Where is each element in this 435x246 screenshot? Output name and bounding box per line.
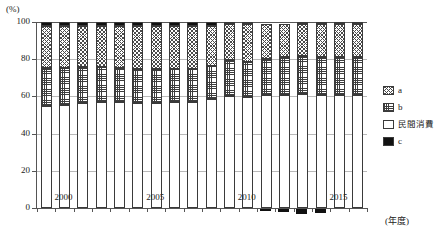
chart-root: (%) ab民間消費c (年度) 02040608010020002005201…: [0, 0, 435, 246]
x-axis-tick-label: 2015: [330, 192, 348, 202]
bar-segment-consumption: [352, 95, 363, 208]
bar-segment-c: [59, 22, 70, 26]
x-axis-tick: [330, 208, 331, 212]
bar-segment-c: [206, 22, 217, 26]
stacked-bar[interactable]: [169, 22, 180, 208]
legend-swatch-c: [383, 137, 394, 146]
y-axis-tick-label: 40: [3, 128, 30, 138]
y-axis-tick-label: 60: [3, 90, 30, 100]
bar-segment-b: [96, 67, 107, 102]
bar-segment-b: [297, 56, 308, 93]
stacked-bar[interactable]: [316, 22, 327, 208]
stacked-bar[interactable]: [279, 22, 290, 208]
bar-segment-a: [352, 24, 363, 57]
bar-segment-b: [59, 68, 70, 105]
bar-segment-a: [242, 24, 253, 62]
stacked-bar[interactable]: [297, 22, 308, 208]
x-axis-tick-label: 2005: [146, 192, 164, 202]
stacked-bar[interactable]: [206, 22, 217, 208]
x-axis-tick: [367, 208, 368, 212]
bar-segment-a: [41, 26, 52, 68]
legend-label-a: a: [398, 86, 402, 95]
x-axis-tick: [312, 208, 313, 212]
x-axis-tick: [55, 208, 56, 212]
x-axis-tick: [202, 208, 203, 212]
x-axis-tick: [37, 208, 38, 212]
bar-segment-c: [297, 22, 308, 24]
bar-segment-b: [151, 69, 162, 102]
bar-segment-a: [334, 24, 345, 57]
legend-swatch-consumption: [383, 120, 394, 129]
y-axis-tick: [32, 96, 37, 97]
x-axis-tick-label: 2010: [238, 192, 256, 202]
x-axis-tick: [147, 208, 148, 212]
stacked-bar[interactable]: [151, 22, 162, 208]
x-axis-unit-label: (年度): [385, 214, 409, 227]
x-axis-tick: [294, 208, 295, 212]
legend-label-c: c: [398, 137, 402, 146]
stacked-bar[interactable]: [77, 22, 88, 208]
bar-segment-c: [187, 22, 198, 26]
stacked-bar[interactable]: [114, 22, 125, 208]
bar-segment-c: [169, 22, 180, 26]
bar-segment-b: [187, 69, 198, 102]
bar-segment-consumption: [187, 102, 198, 208]
x-axis-tick: [184, 208, 185, 212]
bar-segment-consumption: [334, 95, 345, 208]
x-axis-tick: [257, 208, 258, 212]
bar-segment-consumption: [114, 102, 125, 208]
bar-segment-c: [352, 22, 363, 24]
x-axis-tick: [220, 208, 221, 212]
y-axis-tick: [32, 59, 37, 60]
bar-segment-c: [96, 22, 107, 26]
bar-segment-c: [114, 22, 125, 26]
x-axis-tick: [349, 208, 350, 212]
stacked-bar[interactable]: [334, 22, 345, 208]
bar-segment-consumption: [316, 95, 327, 208]
bar-segment-b: [224, 60, 235, 96]
bar-segment-c: [224, 22, 235, 24]
bar-segment-consumption: [297, 94, 308, 208]
bar-segment-b: [279, 57, 290, 94]
bar-segment-b: [242, 62, 253, 97]
legend-swatch-a: [383, 86, 394, 95]
y-axis-tick: [32, 171, 37, 172]
stacked-bar[interactable]: [41, 22, 52, 208]
x-axis-tick: [129, 208, 130, 212]
legend-item-b[interactable]: b: [383, 99, 435, 116]
stacked-bar[interactable]: [261, 22, 272, 208]
x-axis-tick: [239, 208, 240, 212]
legend-item-consumption[interactable]: 民間消費: [383, 116, 435, 133]
bar-segment-c-negative: [278, 209, 289, 212]
y-axis-tick: [32, 134, 37, 135]
bar-segment-b: [114, 68, 125, 102]
bar-segment-a: [59, 26, 70, 68]
bar-segment-a: [96, 26, 107, 67]
bar-segment-b: [169, 69, 180, 102]
stacked-bar[interactable]: [224, 22, 235, 208]
x-axis-tick: [74, 208, 75, 212]
bar-segment-b: [132, 69, 143, 102]
stacked-bar[interactable]: [132, 22, 143, 208]
legend-item-a[interactable]: a: [383, 82, 435, 99]
stacked-bar[interactable]: [187, 22, 198, 208]
bar-segment-c-negative: [296, 209, 307, 214]
y-axis-unit-label: (%): [6, 4, 20, 14]
y-axis-tick-label: 100: [3, 16, 30, 26]
stacked-bar[interactable]: [96, 22, 107, 208]
y-axis-tick-label: 80: [3, 53, 30, 63]
legend-item-c[interactable]: c: [383, 133, 435, 150]
bar-segment-consumption: [224, 96, 235, 208]
bar-segment-c-negative: [315, 209, 326, 213]
bar-segment-b: [334, 57, 345, 94]
bar-segment-b: [352, 57, 363, 94]
stacked-bar[interactable]: [352, 22, 363, 208]
x-axis-tick-label: 2000: [55, 192, 73, 202]
stacked-bar[interactable]: [242, 22, 253, 208]
stacked-bar[interactable]: [59, 22, 70, 208]
bar-segment-consumption: [206, 99, 217, 208]
y-axis-tick-label: 0: [3, 202, 30, 212]
bar-segment-a: [206, 26, 217, 66]
legend-swatch-b: [383, 103, 394, 112]
bar-segment-a: [316, 24, 327, 57]
